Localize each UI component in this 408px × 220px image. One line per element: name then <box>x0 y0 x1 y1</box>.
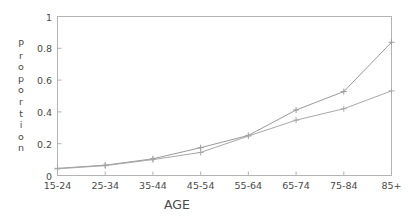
plot-area <box>0 0 408 220</box>
data-point-marker <box>150 157 156 163</box>
data-point-marker <box>389 88 395 94</box>
data-point-marker <box>55 166 61 172</box>
data-point-marker <box>198 149 204 155</box>
x-axis-title: AGE <box>0 197 408 212</box>
data-point-marker <box>293 107 299 113</box>
x-axis-title-text: AGE <box>164 197 190 212</box>
data-line-series-2 <box>58 91 392 169</box>
data-point-marker <box>341 106 347 112</box>
data-line-series-1 <box>58 42 392 168</box>
data-point-marker <box>293 117 299 123</box>
data-point-marker <box>102 163 108 169</box>
plot-frame <box>58 17 392 176</box>
chart-container: Proportion 00.20.40.60.81 15-2425-3435-4… <box>0 0 408 220</box>
